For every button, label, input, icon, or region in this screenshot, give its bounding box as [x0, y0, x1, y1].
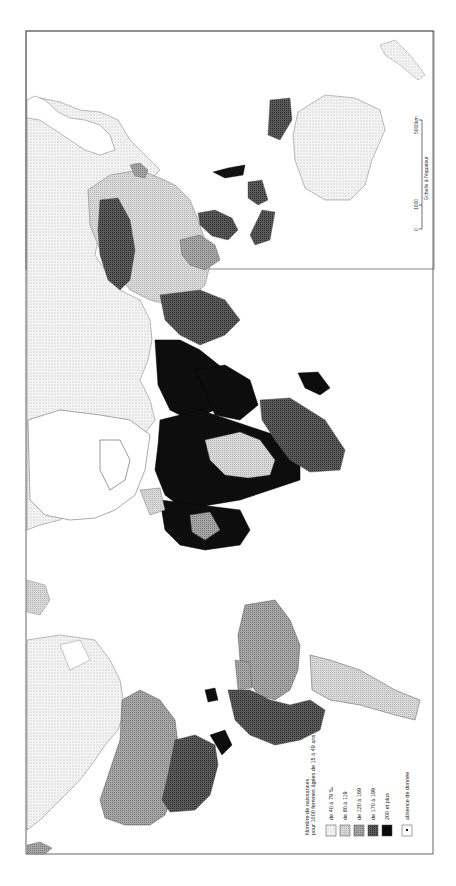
legend-label-no-data: absence de donnée	[404, 772, 410, 820]
region-caribbean	[205, 688, 218, 702]
region-alaska-north	[27, 580, 50, 615]
region-venezuela	[235, 660, 252, 690]
region-indonesia-1	[248, 180, 268, 205]
scale-label: Echelle à l'équateur	[423, 156, 429, 200]
scale-tick-1000: 1000	[413, 199, 419, 210]
region-india	[160, 290, 240, 345]
legend-label-80-119: de 80 à 119	[342, 791, 348, 820]
region-southern-cone	[310, 655, 420, 720]
legend-label-200-plus: 200 et plus	[384, 793, 390, 820]
legend-label-170-199: de 170 à 199	[370, 788, 376, 820]
legend-swatch-170-199	[368, 825, 378, 836]
region-madagascar	[298, 372, 330, 395]
legend-swatch-80-119	[340, 825, 350, 836]
world-fertility-map: 0 1000 5000km Echelle à l'équateur Nombr…	[0, 0, 456, 886]
region-australia	[293, 95, 385, 200]
region-philippines	[268, 98, 292, 140]
region-alaska	[27, 842, 52, 854]
region-new-zealand	[380, 40, 425, 80]
region-europe	[28, 410, 150, 520]
legend-title-line2: pour 1000 femmes âgées de 15 à 49 ans	[310, 734, 316, 835]
region-indonesia-2	[250, 210, 275, 245]
scale-tick-5000: 5000km	[413, 116, 419, 134]
region-new-guinea	[213, 165, 245, 178]
scale-bar: 0 1000 5000km Echelle à l'équateur	[413, 116, 429, 231]
legend-label-120-169: de 120 à 169	[356, 788, 362, 820]
legend: Nombre de naissances pour 1000 femmes âg…	[304, 734, 412, 836]
region-turkey	[140, 488, 165, 515]
legend-swatch-200-plus	[382, 825, 392, 836]
region-southeast-asia	[198, 210, 238, 240]
legend-label-40-79: de 40 à 79 ‰	[328, 786, 334, 820]
scale-tick-0: 0	[413, 228, 419, 231]
legend-swatch-120-169	[354, 825, 364, 836]
legend-swatch-40-79	[326, 825, 336, 836]
